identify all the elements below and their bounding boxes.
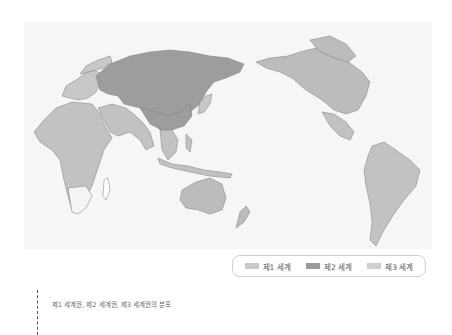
region-central-america	[322, 112, 354, 140]
world-map	[0, 0, 452, 250]
region-australia	[180, 178, 226, 214]
region-madagascar	[103, 178, 110, 200]
legend-label-third-world: 제3 세계	[385, 261, 413, 272]
region-southeast-asia	[160, 130, 178, 160]
region-south-america	[364, 142, 420, 246]
swatch-third-world-icon	[367, 263, 381, 269]
region-philippines	[186, 134, 192, 152]
map-legend: 제1 세계 제2 세계 제3 세계	[232, 255, 426, 277]
region-indonesia	[158, 158, 232, 178]
swatch-second-world-icon	[306, 263, 320, 269]
region-western-europe	[62, 70, 102, 100]
region-south-africa	[68, 186, 92, 214]
figure-caption: 제1 세계권, 제2 세계권, 제3 세계권의 분포	[52, 299, 171, 309]
region-new-zealand	[236, 206, 250, 228]
legend-item-first-world: 제1 세계	[245, 261, 291, 272]
swatch-first-world-icon	[245, 263, 259, 269]
legend-label-first-world: 제1 세계	[263, 261, 291, 272]
legend-label-second-world: 제2 세계	[324, 261, 352, 272]
caption-divider	[37, 290, 38, 335]
legend-item-second-world: 제2 세계	[306, 261, 352, 272]
legend-item-third-world: 제3 세계	[367, 261, 413, 272]
